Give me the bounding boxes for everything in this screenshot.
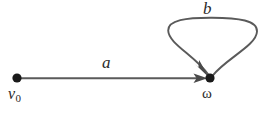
edge-a-group [19, 73, 208, 83]
edge-b-group [168, 18, 257, 78]
graph-canvas [0, 0, 271, 113]
node-v0-label-base: v [8, 85, 15, 102]
graph-figure: a b v0 ω [0, 0, 271, 113]
node-omega-label: ω [202, 86, 212, 101]
edge-a-label: a [102, 54, 111, 71]
edge-b-loop-path [168, 18, 257, 76]
node-omega-dot [205, 73, 214, 82]
node-v0-label-subscript: 0 [16, 92, 22, 104]
edge-b-label: b [203, 0, 212, 17]
node-v0-dot [12, 73, 21, 82]
node-v0-label: v0 [8, 86, 21, 104]
